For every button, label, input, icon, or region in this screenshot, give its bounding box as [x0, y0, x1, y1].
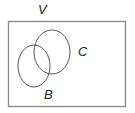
set-c-label: C	[78, 45, 87, 58]
venn-diagram-graphic	[0, 0, 135, 113]
universe-label: V	[38, 3, 47, 16]
venn-diagram: V C B	[0, 0, 135, 113]
set-c-ellipse	[34, 30, 70, 74]
set-b-label: B	[44, 88, 53, 101]
